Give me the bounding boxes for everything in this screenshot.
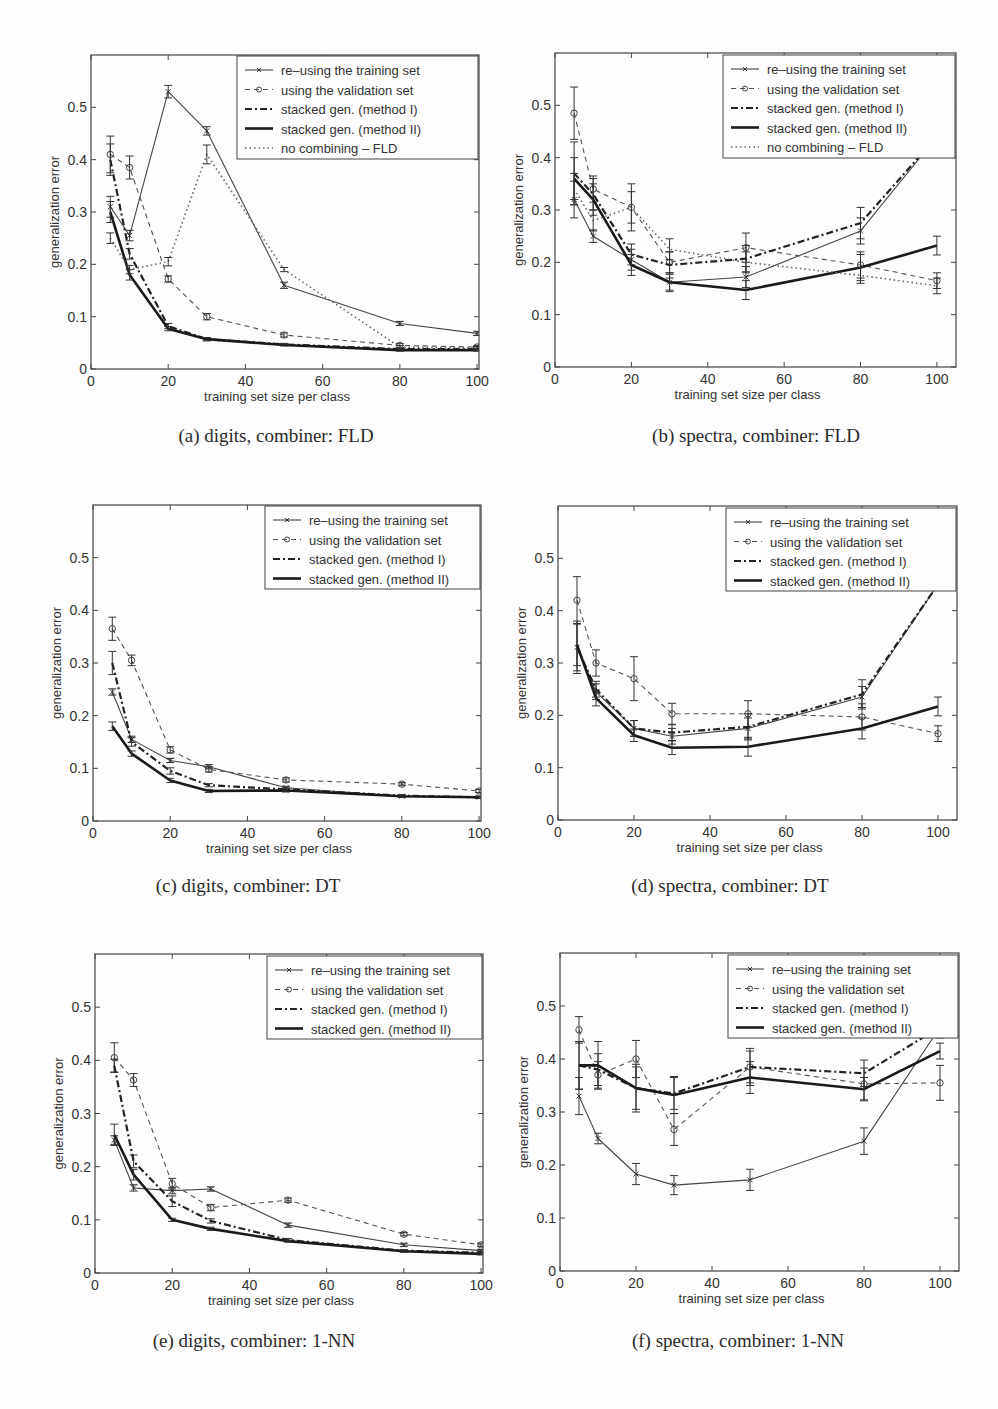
y-tick-label: 0.2 (537, 1157, 557, 1173)
y-tick-label: 0.1 (537, 1210, 557, 1226)
legend-entry-validation: using the validation set (772, 982, 905, 997)
caption-a: (a) digits, combiner: FLD (178, 425, 373, 447)
x-tick-label: 20 (628, 1275, 644, 1291)
legend-entry-method2: stacked gen. (method II) (772, 1021, 912, 1036)
chart-f-plot: 02040608010000.10.20.30.40.5training set… (0, 0, 998, 1409)
y-tick-label: 0.5 (537, 998, 557, 1014)
y-axis-label: generalization error (516, 1055, 531, 1168)
caption-e: (e) digits, combiner: 1-NN (153, 1330, 356, 1352)
legend-entry-training: re–using the training set (772, 962, 911, 977)
caption-c: (c) digits, combiner: DT (156, 875, 341, 897)
x-tick-label: 80 (856, 1275, 872, 1291)
caption-f: (f) spectra, combiner: 1-NN (632, 1330, 844, 1352)
legend-entry-method1: stacked gen. (method I) (772, 1001, 909, 1016)
y-tick-label: 0.4 (537, 1051, 557, 1067)
x-tick-label: 0 (556, 1275, 564, 1291)
x-tick-label: 40 (704, 1275, 720, 1291)
x-tick-label: 60 (780, 1275, 796, 1291)
x-axis-label: training set size per class (679, 1291, 825, 1306)
y-tick-label: 0 (548, 1263, 556, 1279)
caption-b: (b) spectra, combiner: FLD (652, 425, 860, 447)
caption-d: (d) spectra, combiner: DT (631, 875, 828, 897)
x-tick-label: 100 (928, 1275, 952, 1291)
y-tick-label: 0.3 (537, 1104, 557, 1120)
chart-legend: re–using the training setusing the valid… (728, 955, 958, 1038)
series-line-training (579, 1027, 940, 1185)
